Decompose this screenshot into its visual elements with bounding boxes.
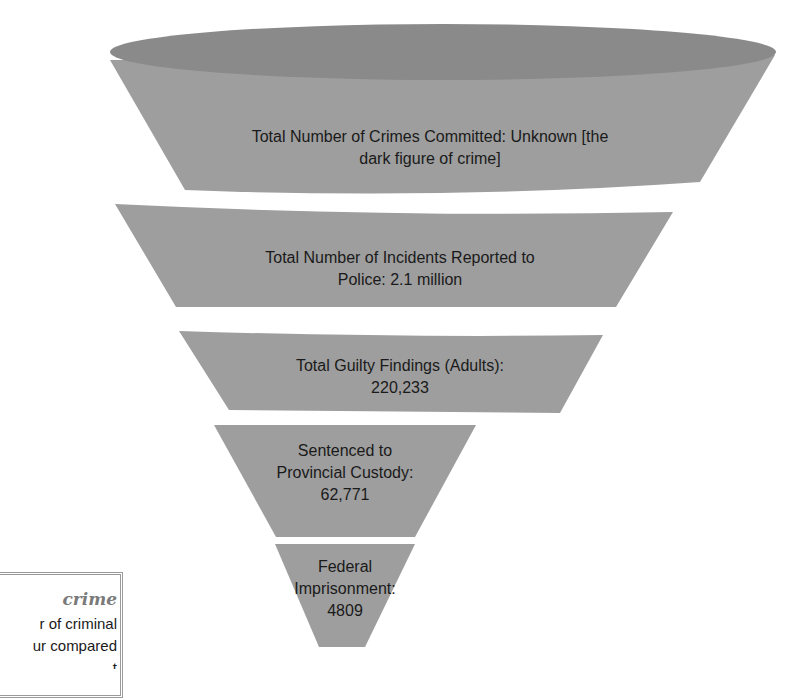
stage-5-line-3: 4809 (275, 600, 415, 622)
stage-1-line-1: Total Number of Crimes Committed: Unknow… (160, 126, 700, 148)
stage-5-line-2: Imprisonment: (275, 578, 415, 600)
stage-3-line-2: 220,233 (240, 377, 560, 399)
stage-5-label: Federal Imprisonment: 4809 (275, 556, 415, 622)
stage-1-line-2: dark figure of crime] (160, 148, 700, 170)
stage-2-line-1: Total Number of Incidents Reported to (200, 247, 600, 269)
definition-line-1: r of criminal (0, 615, 117, 632)
stage-4-label: Sentenced to Provincial Custody: 62,771 (255, 440, 435, 506)
definition-term: crime (0, 589, 117, 609)
stage-4-line-2: Provincial Custody: (255, 462, 435, 484)
stage-4-line-1: Sentenced to (255, 440, 435, 462)
stage-4-line-3: 62,771 (255, 484, 435, 506)
stage-3-label: Total Guilty Findings (Adults): 220,233 (240, 355, 560, 399)
definition-box: crime r of criminal ur compared t (0, 572, 123, 698)
stage-2-line-2: Police: 2.1 million (200, 269, 600, 291)
stage-5-line-1: Federal (275, 556, 415, 578)
funnel-top-ellipse (110, 24, 776, 80)
stage-2-label: Total Number of Incidents Reported to Po… (200, 247, 600, 291)
stage-1-label: Total Number of Crimes Committed: Unknow… (160, 126, 700, 170)
stage-3-line-1: Total Guilty Findings (Adults): (240, 355, 560, 377)
definition-line-2: ur compared (0, 637, 117, 654)
definition-line-3: t (0, 659, 117, 669)
